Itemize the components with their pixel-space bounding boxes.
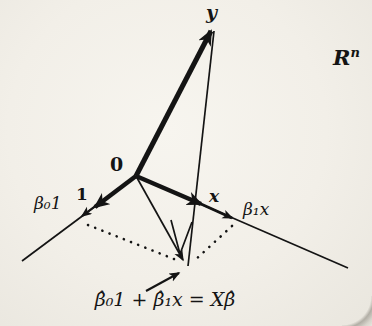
fitted-equation-label: β̂₀1 + β̂₁x = Xβ̂ bbox=[85, 290, 245, 309]
rn-superscript: n bbox=[350, 45, 359, 60]
beta1-x-label: β₁x bbox=[243, 201, 269, 218]
y-vector-label: y bbox=[206, 3, 217, 22]
beta0-one-label: β₀1 bbox=[34, 195, 61, 212]
x-vector-label: x bbox=[209, 188, 219, 205]
rn-space-label: Rn bbox=[333, 46, 360, 69]
rn-base: R bbox=[333, 45, 350, 70]
origin-label: 0 bbox=[110, 155, 123, 174]
least-squares-projection-diagram bbox=[0, 0, 372, 326]
page-corner-shadow bbox=[342, 296, 372, 326]
fitted-vector-arrow bbox=[136, 176, 183, 260]
one-vector-arrow bbox=[95, 176, 136, 207]
x-vector-arrow bbox=[136, 176, 201, 204]
right-angle-marker bbox=[171, 220, 192, 254]
dotted-line-right bbox=[194, 226, 232, 261]
dotted-line-left bbox=[88, 225, 179, 261]
one-vector-label: 1 bbox=[76, 186, 88, 203]
textbook-figure-page: y Rn 0 1 β₀1 x β₁x β̂₀1 + β̂₁x = Xβ̂ bbox=[0, 0, 372, 326]
